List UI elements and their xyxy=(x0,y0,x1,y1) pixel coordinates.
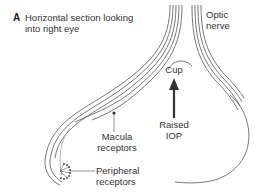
iop-arrow xyxy=(169,78,179,118)
peripheral-receptors-marker xyxy=(60,163,95,180)
label-raised-iop: Raised IOP xyxy=(156,119,192,141)
label-macula-receptors: Macula receptors xyxy=(92,131,142,153)
macula-receptor-marker xyxy=(112,111,115,132)
label-optic-nerve: Optic nerve xyxy=(206,9,230,31)
label-peripheral-receptors: Peripheral receptors xyxy=(96,165,139,187)
nerve-fibers xyxy=(45,5,249,185)
label-cup: Cup xyxy=(160,64,188,75)
